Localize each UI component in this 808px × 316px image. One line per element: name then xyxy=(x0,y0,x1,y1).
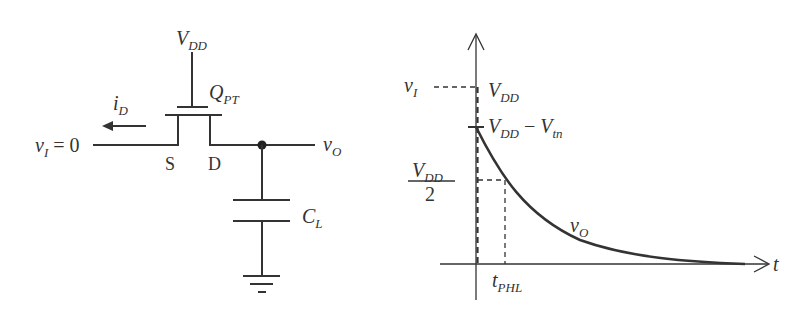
input-level-label: vI xyxy=(404,74,418,100)
tphl-label: tPHL xyxy=(492,269,522,295)
vdd-level-label: VDD xyxy=(488,79,520,105)
capacitor-label: CL xyxy=(302,205,323,231)
x-axis-label: t xyxy=(773,253,779,275)
output-label: vO xyxy=(323,133,342,159)
current-arrow-icon xyxy=(102,121,113,131)
half-vdd-denominator: 2 xyxy=(425,183,435,205)
figure: VDD QPT iD vI = 0 S D vO CL xyxy=(0,0,808,316)
vdd-minus-vtn-label: VDD − Vtn xyxy=(488,115,563,141)
input-label: vI = 0 xyxy=(35,134,80,160)
drain-terminal-label: D xyxy=(208,154,221,174)
output-decay-curve xyxy=(476,127,745,264)
transistor-label: QPT xyxy=(209,81,239,107)
vdd-supply-label: VDD xyxy=(176,27,208,53)
circuit-schematic: VDD QPT iD vI = 0 S D vO CL xyxy=(35,27,342,292)
current-label: iD xyxy=(113,92,129,118)
waveform-graph: t vI VDD VDD − Vtn VDD 2 vO tPHL xyxy=(404,34,779,300)
ground-icon xyxy=(243,276,280,292)
source-terminal-label: S xyxy=(165,154,175,174)
